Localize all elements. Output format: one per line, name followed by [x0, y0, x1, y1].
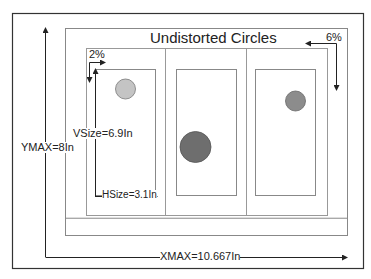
viewport-middle [177, 70, 237, 196]
circle-left [116, 79, 136, 99]
xmax-label: XMAX=10.667In [160, 251, 240, 262]
vsize-label: VSize=6.9In [73, 128, 133, 139]
margin-right-label: 6% [326, 32, 342, 43]
circle-right [286, 91, 306, 111]
viewport-right [256, 70, 316, 196]
hsize-label: HSize=3.1In [102, 190, 157, 200]
circle-middle [180, 132, 211, 163]
diagram-title: Undistorted Circles [150, 30, 277, 45]
margin-left-label: 2% [89, 49, 105, 60]
ymax-label: YMAX=8In [21, 142, 74, 153]
